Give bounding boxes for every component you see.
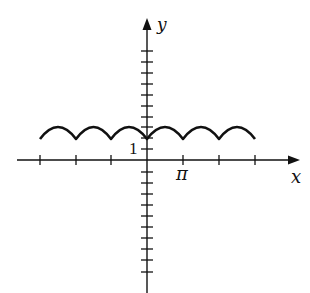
y-tick-label-1: 1 (129, 139, 138, 159)
y-axis-arrow-icon (143, 18, 152, 30)
x-axis-arrow-icon (288, 156, 300, 165)
graph-canvas: y x π 1 (0, 0, 310, 293)
x-tick-label-pi: π (176, 163, 188, 184)
y-axis-label: y (157, 14, 167, 34)
x-axis-label: x (291, 166, 301, 187)
graph-svg (0, 0, 310, 293)
